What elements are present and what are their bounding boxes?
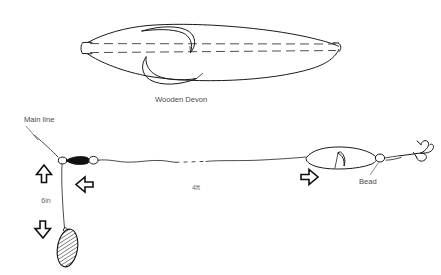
devon-body-upper	[88, 24, 339, 46]
hook-shank	[400, 153, 421, 156]
leader-length-label: 4ft	[192, 183, 200, 192]
lead-weight	[55, 228, 81, 269]
swivel-barrel	[67, 157, 90, 165]
bead	[375, 154, 384, 162]
main-line-leader-stroke	[26, 126, 38, 140]
devon-nose-cap	[81, 43, 83, 54]
swivel-ring-right	[89, 156, 98, 164]
bead-label: Bead	[359, 177, 377, 186]
arrow-right-icon	[301, 170, 318, 185]
leader-line-break	[176, 161, 206, 162]
rig-group: Main line 4ft 6in	[24, 115, 434, 268]
arrow-down-icon	[35, 221, 51, 238]
leader-line-left	[98, 160, 176, 162]
devon-lower-fin-join	[197, 74, 203, 79]
main-line-label: Main line	[24, 115, 54, 124]
main-line	[34, 135, 58, 157]
hook-bend-lower	[417, 153, 427, 161]
hook-link-wire	[385, 156, 401, 158]
treble-hook	[400, 141, 434, 162]
devon-upper-fin-join	[190, 47, 191, 53]
weight-body	[55, 228, 81, 269]
arrow-up-icon	[37, 165, 52, 183]
devon-centre-line-lower	[90, 51, 336, 53]
devon-lower-fin	[143, 57, 197, 84]
hook-point-upper	[417, 141, 421, 145]
three-way-swivel	[58, 156, 98, 164]
devon-body-lower	[88, 50, 339, 81]
wooden-devon-group: Wooden Devon	[81, 24, 341, 104]
dropper-line	[62, 164, 65, 228]
devon-upper-fin	[142, 27, 195, 53]
dropper-length-label: 6in	[41, 196, 51, 205]
small-devon-minnow	[306, 147, 376, 169]
wooden-devon-label: Wooden Devon	[155, 95, 207, 104]
arrow-left-icon	[76, 177, 93, 192]
small-devon-body	[306, 147, 376, 169]
rig-diagram: Wooden Devon Main line 4ft	[0, 0, 441, 275]
leader-line-right	[206, 157, 306, 161]
hook-bend-upper	[421, 141, 429, 153]
swivel-ring-left	[58, 157, 66, 164]
